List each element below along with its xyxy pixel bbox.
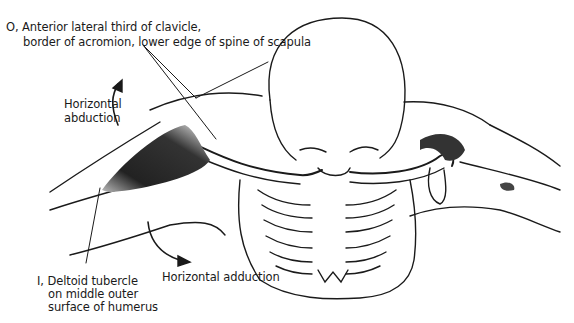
origin-label: O, Anterior lateral third of clavicle, xyxy=(6,20,201,34)
adduction-arrow xyxy=(148,222,182,261)
deltoid-muscle xyxy=(102,125,210,192)
abduction-line1: Horizontal xyxy=(64,97,122,111)
clavicle-right xyxy=(350,154,453,174)
origin-leader-1 xyxy=(143,45,196,98)
insertion-prefix: I, xyxy=(37,274,44,288)
abduction-line2: abduction xyxy=(64,111,120,125)
insertion-leader xyxy=(86,188,100,263)
origin-line2: border of acromion, lower edge of spine … xyxy=(23,35,311,49)
origin-line1: Anterior lateral third of clavicle, xyxy=(22,20,201,34)
insertion-line1: I, Deltoid tubercle xyxy=(37,274,138,288)
adduction-label: Horizontal adduction xyxy=(162,270,280,284)
origin-prefix: O, xyxy=(6,20,19,34)
insertion-line2: on middle outer xyxy=(48,287,138,301)
insertion-line3: surface of humerus xyxy=(48,300,158,314)
